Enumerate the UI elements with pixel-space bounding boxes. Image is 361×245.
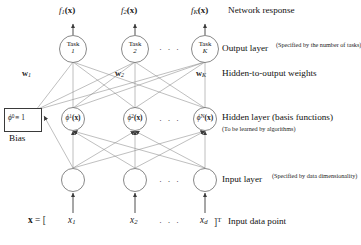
hidden-layer-caption: Hidden layer (basis functions) — [222, 113, 333, 123]
input-layer-note: (Specified by data dimensionality) — [272, 172, 357, 179]
hidden-to-output-weights-caption: Hidden-to-output weights — [222, 69, 317, 79]
output-layer-ellipsis: · · · — [159, 44, 181, 54]
network-response-caption: Network response — [228, 6, 295, 16]
response-label-k: fK(x) — [191, 6, 208, 16]
output-node-task-1[interactable]: Task1 — [59, 41, 87, 55]
weight-label-1: w1 — [22, 70, 31, 79]
weight-label-k: wK — [196, 70, 206, 79]
hidden-layer-note: (To be learned by algorithms) — [222, 125, 295, 132]
input-vector-component-1: x1 — [68, 216, 76, 226]
output-layer-note: (Specified by the number of tasks) — [276, 41, 361, 48]
input-vector-component-2: x2 — [130, 216, 138, 226]
hidden-layer-ellipsis: · · · — [159, 115, 181, 125]
output-layer-caption: Output layer — [222, 44, 268, 54]
bias-caption: Bias — [9, 134, 25, 144]
hidden-node-1[interactable]: ϕ1(x) — [58, 114, 88, 122]
hidden-node-2[interactable]: ϕ2(x) — [120, 114, 150, 122]
input-layer-ellipsis: · · · — [159, 176, 181, 186]
bias-node-label: ϕ0 ≡ 1 — [8, 114, 25, 122]
response-label-1: f1(x) — [59, 6, 75, 16]
weight-label-2: w2 — [115, 70, 124, 79]
input-layer-caption: Input layer — [222, 175, 262, 185]
response-label-2: f2(x) — [121, 6, 137, 16]
output-node-task-2[interactable]: Task2 — [121, 41, 149, 55]
input-data-point-caption: Input data point — [228, 217, 286, 227]
input-vector-ellipsis: · · · — [159, 217, 181, 227]
input-vector-lhs: x = [ — [28, 216, 46, 226]
input-vector-component-d: xd — [200, 216, 208, 226]
hidden-node-n[interactable]: ϕN(x) — [190, 114, 220, 122]
output-node-task-k[interactable]: TaskK — [191, 41, 219, 55]
input-vector-close: ]T — [214, 216, 221, 228]
